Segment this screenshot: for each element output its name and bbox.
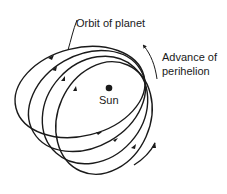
advance-arrow-icon: [144, 46, 157, 79]
sun-dot: [106, 85, 113, 92]
orbit-ellipses: [5, 30, 169, 190]
advance-label-line2: perihelion: [162, 65, 210, 77]
orbit-ellipse-1: [5, 33, 154, 150]
orbit-ellipse-4: [38, 46, 169, 189]
arrow-icon: [73, 86, 77, 91]
advance-label-line1: Advance of: [162, 51, 218, 63]
perihelion-diagram: Sun Orbit of planet Advance of perihelio…: [0, 0, 227, 194]
orbit-ellipse-3: [21, 35, 170, 185]
orbit-label: Orbit of planet: [76, 17, 145, 29]
arrow-icon: [131, 144, 136, 149]
arrow-icon: [61, 76, 65, 81]
orbit-tail: [134, 143, 155, 165]
sun-label: Sun: [99, 94, 119, 106]
